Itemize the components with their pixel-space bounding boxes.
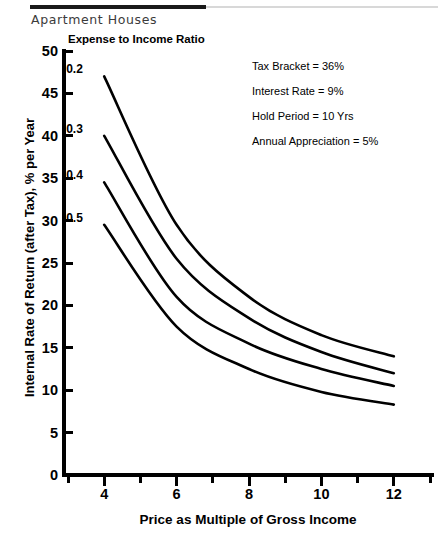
- series-label: 0.4: [66, 168, 83, 182]
- x-tick-label: 10: [301, 487, 341, 502]
- y-tick-label: 15: [18, 341, 58, 356]
- y-tick: [66, 431, 73, 434]
- y-tick-label: 20: [18, 298, 58, 313]
- series-label: 0.3: [66, 122, 83, 136]
- y-tick-label: 0: [18, 468, 58, 483]
- y-tick-label: 5: [18, 426, 58, 441]
- annotation-box: Tax Bracket = 36%Interest Rate = 9%Hold …: [252, 60, 378, 160]
- y-tick-label: 50: [18, 44, 58, 59]
- series-line: [104, 136, 394, 373]
- y-tick: [66, 262, 73, 265]
- x-tick-minor: [284, 477, 287, 483]
- annotation-line: Annual Appreciation = 5%: [252, 135, 378, 147]
- x-tick-label: 6: [157, 487, 197, 502]
- x-tick-minor: [429, 477, 432, 483]
- annotation-line: Tax Bracket = 36%: [252, 60, 378, 72]
- x-tick-major: [175, 477, 178, 486]
- x-tick-major: [103, 477, 106, 486]
- series-label: 0.2: [66, 62, 83, 76]
- y-tick: [66, 389, 73, 392]
- y-tick-label: 45: [18, 86, 58, 101]
- y-tick-label: 35: [18, 171, 58, 186]
- annotation-line: Interest Rate = 9%: [252, 85, 378, 97]
- chart-figure: Apartment Houses Internal Rate of Return…: [0, 0, 443, 536]
- series-label: 0.5: [66, 211, 83, 225]
- x-tick-major: [320, 477, 323, 486]
- x-axis-title: Price as Multiple of Gross Income: [62, 512, 434, 527]
- legend-title: Expense to Income Ratio: [68, 33, 205, 45]
- x-tick-label: 8: [229, 487, 269, 502]
- y-tick-label: 10: [18, 383, 58, 398]
- y-tick: [66, 346, 73, 349]
- y-tick: [66, 50, 73, 53]
- x-tick-minor: [67, 477, 70, 483]
- x-tick-label: 12: [374, 487, 414, 502]
- series-line: [104, 182, 394, 386]
- y-tick: [66, 92, 73, 95]
- x-tick-minor: [139, 477, 142, 483]
- x-tick-label: 4: [84, 487, 124, 502]
- y-tick-label: 30: [18, 214, 58, 229]
- x-tick-major: [392, 477, 395, 486]
- y-tick-label: 40: [18, 129, 58, 144]
- x-tick-minor: [356, 477, 359, 483]
- x-tick-major: [248, 477, 251, 486]
- y-tick: [66, 304, 73, 307]
- series-line: [104, 225, 394, 405]
- annotation-line: Hold Period = 10 Yrs: [252, 110, 378, 122]
- y-tick-label: 25: [18, 256, 58, 271]
- x-tick-minor: [211, 477, 214, 483]
